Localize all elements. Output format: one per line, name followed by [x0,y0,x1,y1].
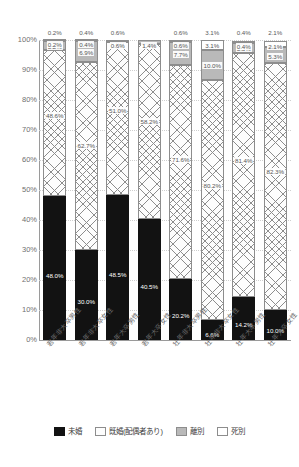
legend-swatch-married [95,427,106,436]
segment-value-label: 5.3% [267,53,283,60]
bar-top-value-label: 0.4% [237,29,251,36]
bar-column[interactable]: 30.0%62.7%6.9%0.4%0.4% [75,40,98,340]
segment-value-label: 10.0% [202,62,222,69]
bar-segment-married[interactable]: 82.3% [264,63,287,310]
segment-value-label: 40.5% [139,283,159,290]
x-axis-category-labels: 若年非大卒男性若年非大卒女性若年大卒男性若年大卒女性壮年非大卒男性壮年非大卒女性… [39,343,291,409]
bar-series-group: 48.0%48.6%3.2%0.2%0.2%30.0%62.7%6.9%0.4%… [39,40,291,340]
bar-column[interactable]: 40.5%58.2%1.4% [138,40,161,340]
bar-column[interactable]: 14.2%81.4%3.5%0.4%0.4% [232,40,255,340]
y-tick-80: 80% [3,96,37,104]
bar-segment-unmarried[interactable]: 48.5% [106,195,129,341]
y-axis-tick-labels: 100%90%80%70%60%50%40%30%20%10%0% [0,40,37,341]
bar-top-value-label: 0.4% [79,29,93,36]
legend-label-widowed: 死別 [231,427,245,436]
bar-segment-married[interactable]: 48.6% [43,50,66,196]
segment-value-label: 0.6% [173,42,189,49]
bar-segment-divorced[interactable]: 1.4% [138,40,161,44]
segment-value-label: 1.4% [141,42,157,49]
bar-segment-married[interactable]: 81.4% [232,53,255,297]
segment-value-label: 58.2% [139,118,159,125]
bar-segment-married[interactable]: 58.2% [138,44,161,219]
y-tick-0: 0% [3,336,37,344]
bar-segment-married[interactable]: 71.6% [169,65,192,280]
bar-column[interactable]: 6.6%80.2%10.0%3.1%3.1% [201,40,224,340]
bar-top-value-label: 0.2% [48,29,62,36]
y-tick-50: 50% [3,186,37,194]
y-tick-30: 30% [3,246,37,254]
bar-top-value-label: 0.6% [174,29,188,36]
bar-column[interactable]: 20.2%71.6%7.7%0.6%0.6% [169,40,192,340]
segment-value-label: 20.2% [171,312,191,319]
legend-swatch-divorced [176,427,187,436]
marital-status-stacked-bar-chart: 100%90%80%70%60%50%40%30%20%10%0% 48.0%4… [0,0,299,467]
bar-segment-divorced[interactable]: 10.0% [201,50,224,80]
plot-area: 48.0%48.6%3.2%0.2%0.2%30.0%62.7%6.9%0.4%… [39,40,291,340]
bar-segment-married[interactable]: 80.2% [201,80,224,321]
bar-top-value-label: 3.1% [205,29,219,36]
bar-segment-widowed[interactable]: 0.4% [232,41,255,43]
segment-value-label: 0.4% [78,41,94,48]
segment-value-label: 6.9% [78,49,94,56]
bar-column[interactable]: 48.5%51.0%0.6%0.6% [106,40,129,340]
bar-segment-married[interactable]: 62.7% [75,62,98,250]
segment-value-label: 62.7% [76,142,96,149]
bar-segment-widowed[interactable]: 0.6% [106,40,129,42]
bar-segment-married[interactable]: 51.0% [106,42,129,195]
segment-value-label: 0.4% [236,43,252,50]
segment-value-label: 48.6% [45,112,65,119]
bar-segment-widowed[interactable]: 0.4% [75,39,98,41]
y-tick-10: 10% [3,306,37,314]
legend-item-married[interactable]: 既婚(配偶者あり) [95,427,163,436]
segment-value-label: 71.6% [171,156,191,163]
y-tick-70: 70% [3,126,37,134]
legend-swatch-widowed [217,427,228,436]
bar-column[interactable]: 10.0%82.3%5.3%2.1%2.1% [264,40,287,340]
segment-value-label: 82.3% [265,168,285,175]
segment-value-label: 0.2% [47,41,63,48]
legend-item-unmarried[interactable]: 未婚 [54,427,82,436]
legend-item-divorced[interactable]: 離別 [176,427,204,436]
segment-value-label: 3.1% [204,42,220,49]
segment-value-label: 80.2% [202,182,222,189]
segment-value-label: 7.7% [173,51,189,58]
y-tick-40: 40% [3,216,37,224]
segment-value-label: 81.4% [234,157,254,164]
legend-swatch-unmarried [54,427,65,436]
y-tick-60: 60% [3,156,37,164]
bar-top-value-label: 0.6% [111,29,125,36]
legend-item-widowed[interactable]: 死別 [217,427,245,436]
legend-label-divorced: 離別 [190,427,204,436]
bar-segment-widowed[interactable]: 0.2% [43,39,66,41]
y-tick-20: 20% [3,276,37,284]
legend-label-married: 既婚(配偶者あり) [109,427,163,436]
bar-top-value-label: 2.1% [268,29,282,36]
bar-column[interactable]: 48.0%48.6%3.2%0.2%0.2% [43,40,66,340]
chart-legend: 未婚既婚(配偶者あり)離別死別 [0,421,299,441]
segment-value-label: 51.0% [108,107,128,114]
bar-segment-widowed[interactable]: 3.1% [201,40,224,49]
y-tick-100: 100% [3,36,37,44]
segment-value-label: 30.0% [76,298,96,305]
segment-value-label: 48.5% [108,271,128,278]
segment-value-label: 48.0% [45,272,65,279]
segment-value-label: 0.6% [110,42,126,49]
y-tick-90: 90% [3,66,37,74]
bar-segment-widowed[interactable]: 0.6% [169,40,192,42]
gridline-0 [39,340,291,341]
segment-value-label: 2.1% [267,43,283,50]
legend-label-unmarried: 未婚 [68,427,82,436]
bar-segment-unmarried[interactable]: 48.0% [43,196,66,340]
bar-segment-widowed[interactable]: 2.1% [264,41,287,47]
